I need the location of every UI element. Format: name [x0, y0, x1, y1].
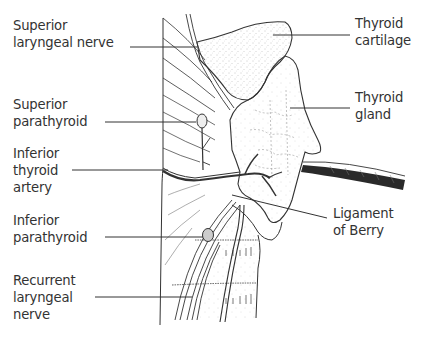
label-line: laryngeal nerve: [13, 34, 114, 51]
label-line: of Berry: [333, 222, 393, 239]
inferior-parathyroid-shape: [203, 229, 214, 242]
label-superior-laryngeal-nerve: Superior laryngeal nerve: [13, 17, 114, 51]
label-line: parathyroid: [13, 113, 87, 130]
label-line: Thyroid: [355, 89, 403, 106]
label-line: Ligament: [333, 205, 393, 222]
label-line: artery: [13, 179, 59, 196]
label-line: Superior: [13, 17, 114, 34]
label-line: thyroid: [13, 162, 59, 179]
label-line: nerve: [13, 306, 75, 323]
label-line: parathyroid: [13, 229, 87, 246]
trachea: [172, 206, 260, 320]
label-inferior-parathyroid: Inferior parathyroid: [13, 212, 87, 246]
label-line: laryngeal: [13, 289, 75, 306]
thyroid-anatomy-diagram: Superior laryngeal nerve Superior parath…: [0, 0, 423, 339]
label-line: cartilage: [355, 32, 411, 49]
label-inferior-thyroid-artery: Inferior thyroid artery: [13, 145, 59, 196]
label-thyroid-cartilage: Thyroid cartilage: [355, 15, 411, 49]
label-thyroid-gland: Thyroid gland: [355, 89, 403, 123]
label-line: gland: [355, 106, 403, 123]
label-line: Recurrent: [13, 272, 75, 289]
label-line: Inferior: [13, 145, 59, 162]
label-ligament-of-berry: Ligament of Berry: [333, 205, 393, 239]
label-superior-parathyroid: Superior parathyroid: [13, 96, 87, 130]
label-line: Superior: [13, 96, 87, 113]
retractor: [301, 162, 405, 190]
label-line: Inferior: [13, 212, 87, 229]
label-line: Thyroid: [355, 15, 411, 32]
label-recurrent-laryngeal-nerve: Recurrent laryngeal nerve: [13, 272, 75, 323]
superior-parathyroid-shape: [197, 114, 207, 128]
